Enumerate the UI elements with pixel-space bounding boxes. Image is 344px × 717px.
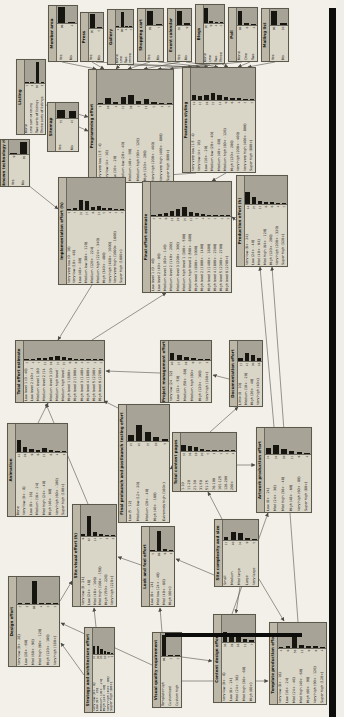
node-state-list: Yes9No91: [9, 140, 30, 186]
state-row: Very large5: [251, 520, 258, 586]
belief-bar: [20, 142, 27, 154]
state-row: None88: [237, 8, 244, 61]
state-row: No45: [67, 103, 78, 151]
state-label: Very high (90+ - 120): [312, 656, 319, 704]
node-state-list: Very low (8+ - 24)44Low (24+ - 40)25Med …: [245, 176, 288, 266]
belief-bar-band: [150, 70, 158, 105]
belief-bar: [151, 102, 156, 104]
edge-event-calendar-to-programming: [144, 62, 180, 69]
belief-bar: [270, 202, 274, 204]
state-probability-value: 1: [52, 605, 59, 612]
state-label: Yes: [57, 31, 67, 61]
belief-bar-band: [183, 341, 190, 361]
edge-utr-to-implementation: [28, 185, 58, 209]
state-row: Super high (120+)4: [319, 623, 326, 704]
belief-bar: [188, 446, 192, 450]
node-state-list: Low level 1 (0 - 40)2Low level 2 (40+ - …: [151, 182, 232, 292]
node-state-list: Very very low (0 - 10)3Very low (10+ - 4…: [67, 178, 126, 284]
belief-bar-band: [168, 527, 174, 552]
belief-bar-band: [237, 520, 244, 541]
node-title: Listing: [17, 60, 25, 134]
state-label: Large: [244, 548, 251, 586]
state-label: High (120+ - 180): [45, 612, 52, 666]
node-title: Shopping cart: [138, 9, 146, 61]
state-probability-value: 4: [112, 105, 120, 112]
scan-page-edge-bar: [329, 8, 336, 717]
scan-outer-margin: [336, 0, 344, 717]
belief-bar: [281, 449, 286, 454]
state-probability-value: 7: [135, 105, 143, 112]
state-label: Super high (80+): [303, 462, 311, 512]
edge-doc-to-pm: [213, 375, 229, 379]
belief-bar: [238, 533, 243, 539]
state-label: Template high: [161, 664, 168, 707]
state-label: Two: [250, 33, 257, 61]
belief-bar: [136, 425, 142, 441]
belief-bar-band: [165, 70, 173, 105]
state-probability-value: 93: [146, 26, 155, 33]
state-label: Very large: [251, 548, 258, 586]
belief-bar: [105, 535, 109, 536]
belief-bar: [37, 358, 41, 359]
state-label: Medium (40+ - 90): [127, 112, 135, 182]
belief-bar: [49, 357, 53, 360]
belief-bar: [68, 22, 75, 23]
state-row: No5: [96, 13, 103, 61]
belief-bar-band: [40, 60, 45, 84]
state-row: Low (5 - 12)15: [127, 405, 136, 522]
belief-bar-band: [112, 70, 120, 105]
node-title: Visual quality requirement: [153, 633, 161, 707]
belief-bar-band: [52, 577, 59, 605]
state-probability-value: 9: [9, 155, 19, 162]
belief-bar: [169, 550, 173, 551]
state-probability-value: 5: [150, 105, 158, 112]
state-probability-value: 27: [176, 361, 183, 368]
belief-bar: [280, 23, 286, 25]
belief-bar-band: [61, 424, 67, 453]
belief-bar-band: [223, 520, 230, 541]
belief-bar: [266, 448, 271, 454]
node-title: Site complexity and size: [215, 520, 223, 586]
belief-bar: [264, 202, 268, 204]
state-row: Very low (4+ - 10)16: [104, 70, 112, 182]
bn-node-sc: Site complexity and sizeSmall12Medium40M…: [214, 519, 259, 587]
state-row: High level 6 (2700+)1: [225, 182, 231, 292]
belief-bar: [245, 353, 249, 361]
belief-bar-band: [228, 615, 235, 643]
state-label: High (60+ - 90): [305, 656, 312, 704]
state-label: Med high (36+ - 60): [242, 650, 249, 702]
state-probability-value: 9: [183, 26, 191, 33]
state-probability-value: 3: [158, 105, 166, 112]
belief-bar-band: [296, 428, 304, 455]
state-probability-value: 2: [219, 24, 224, 31]
belief-bar-band: [197, 341, 204, 361]
state-row: Very high (200+ - 400)5: [150, 70, 158, 182]
state-probability-value: 6: [284, 649, 291, 656]
state-probability-value: 18: [235, 643, 242, 650]
state-probability-value: 88: [31, 605, 38, 612]
state-row: Custom high2: [174, 633, 181, 707]
node-state-list: Little (0 - 10)12Medium (10+ - 20)42High…: [238, 341, 263, 406]
belief-bar: [32, 581, 37, 604]
state-row: Very low (24 - 32)40: [169, 341, 176, 402]
belief-bar: [238, 358, 242, 360]
belief-bar: [67, 209, 71, 210]
state-label: No: [279, 33, 288, 61]
state-probability-value: 5: [251, 541, 258, 548]
state-row: High (60+ - 90)9: [305, 623, 312, 704]
state-label: Super high (800+): [249, 108, 255, 172]
state-label: Medium (20+ - 40): [144, 449, 153, 522]
state-probability-value: 55: [56, 119, 67, 126]
node-state-list: Very low (0+ - 28)2Low (28+ - 60)3Med (6…: [17, 577, 60, 666]
belief-bar: [181, 445, 185, 450]
state-probability-value: 10: [279, 26, 288, 33]
belief-bar: [204, 8, 207, 22]
state-row: High (60+)7: [248, 615, 255, 702]
belief-bar: [156, 24, 162, 25]
node-title: Site visual effort (h): [73, 505, 81, 606]
belief-bar: [313, 646, 318, 647]
belief-bar: [206, 450, 210, 451]
state-probability-value: 2: [174, 657, 181, 664]
edge-pm-to-total-estimate: [106, 371, 160, 373]
state-label: Three: [219, 31, 224, 63]
